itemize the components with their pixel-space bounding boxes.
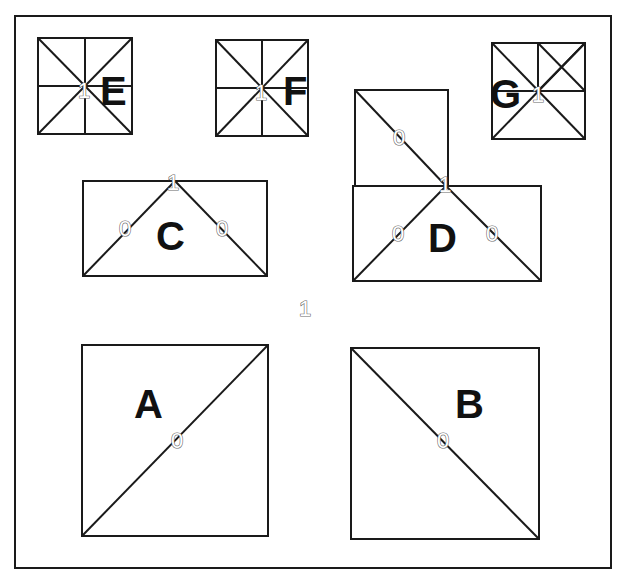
panels-group: 1E1F1G100C0100D0A0B: [38, 38, 585, 539]
panel-e: 1E: [38, 38, 132, 134]
center-value-label: 1: [299, 296, 311, 321]
edge-value-label: 0: [437, 428, 449, 453]
panel-g: 1G: [490, 43, 585, 139]
panel-letter-label: G: [490, 72, 521, 116]
panel-letter-label: E: [100, 69, 127, 113]
edge-value-label: 1: [167, 170, 179, 195]
panel-b: 0B: [351, 348, 539, 539]
panel-c: 100C: [83, 170, 267, 276]
panel-letter-label: B: [455, 382, 484, 426]
edge-value-label: 0: [119, 216, 131, 241]
edge-value-label: 0: [486, 221, 498, 246]
panel-letter-label: D: [428, 216, 457, 260]
panel-letter-label: C: [156, 214, 185, 258]
edge-value-label: 0: [171, 428, 183, 453]
edge-value-label: 0: [392, 221, 404, 246]
diagram-canvas: 1 1E1F1G100C0100D0A0B: [0, 0, 625, 587]
edge-value-label: 1: [439, 172, 451, 197]
edge-value-label: 1: [532, 82, 544, 107]
panel-letter-label: A: [134, 382, 163, 426]
edge-value-label: 1: [255, 80, 267, 105]
panel-f: 1F: [216, 40, 308, 136]
edge-value-label: 0: [393, 125, 405, 150]
panel-letter-label: F: [283, 69, 307, 113]
edge-value-label: 0: [216, 216, 228, 241]
panel-a: 0A: [82, 345, 268, 536]
edge-value-label: 1: [78, 78, 90, 103]
